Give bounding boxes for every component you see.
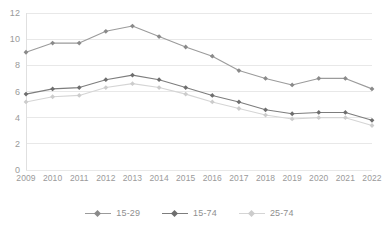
data-point [237,100,242,105]
data-point [24,92,29,97]
data-point [103,85,108,90]
legend-item-15-29[interactable]: 15-29 [85,208,140,218]
legend-marker-icon [248,209,255,216]
data-point [263,113,268,118]
data-point [130,24,135,29]
y-tick-label: 4 [15,113,20,123]
x-tick-label: 2009 [16,173,35,183]
data-point [103,77,108,82]
data-point [370,118,375,123]
data-point [157,34,162,39]
data-point [77,93,82,98]
x-tick-label: 2016 [203,173,222,183]
y-tick-label: 8 [15,60,20,70]
legend-label: 15-74 [193,208,217,218]
x-tick-label: 2018 [256,173,275,183]
data-point [316,115,321,120]
legend-swatch-icon [85,209,111,218]
x-tick-label: 2015 [176,173,195,183]
data-point [77,85,82,90]
data-point [183,45,188,50]
x-tick-label: 2011 [70,173,89,183]
x-tick-label: 2019 [282,173,301,183]
data-point [50,94,55,99]
data-point [343,76,348,81]
legend-label: 15-29 [116,208,140,218]
legend-marker-icon [94,209,101,216]
x-tick-label: 2012 [96,173,115,183]
data-point [237,106,242,111]
x-tick-label: 2013 [123,173,142,183]
legend-item-15-74[interactable]: 15-74 [162,208,217,218]
plot-area [26,13,372,170]
data-point [263,107,268,112]
legend-marker-icon [171,209,178,216]
data-point [316,76,321,81]
data-point [343,110,348,115]
data-point [290,117,295,122]
series-15-29 [24,24,375,92]
y-tick-label: 10 [10,34,20,44]
legend-item-25-74[interactable]: 25-74 [239,208,294,218]
data-point [183,92,188,97]
x-axis: 2009201020112012201320142015201620172018… [26,173,372,189]
data-point [210,54,215,59]
legend-label: 25-74 [270,208,294,218]
data-point [370,86,375,91]
data-point [24,100,29,105]
y-axis: 024681012 [0,0,24,183]
data-point [263,76,268,81]
series-line [26,84,372,126]
data-point [316,110,321,115]
data-point [210,100,215,105]
legend-swatch-icon [239,209,265,218]
data-point [370,123,375,128]
data-point [103,29,108,34]
data-point [50,41,55,46]
data-point [183,85,188,90]
data-point [157,77,162,82]
data-point [157,85,162,90]
x-tick-label: 2021 [336,173,355,183]
legend-swatch-icon [162,209,188,218]
y-tick-label: 6 [15,87,20,97]
x-tick-label: 2014 [149,173,168,183]
data-point [290,83,295,88]
data-point [237,68,242,73]
data-point [50,86,55,91]
data-point [24,50,29,55]
data-point [77,41,82,46]
y-tick-label: 2 [15,139,20,149]
data-point [343,115,348,120]
x-tick-label: 2022 [362,173,381,183]
x-tick-label: 2020 [309,173,328,183]
data-point [130,81,135,86]
y-tick-label: 12 [10,8,20,18]
data-point [210,93,215,98]
series-layer [26,13,372,170]
x-tick-label: 2010 [43,173,62,183]
data-point [130,73,135,78]
chart-legend: 15-2915-7425-74 [0,203,379,223]
data-point [290,111,295,116]
x-tick-label: 2017 [229,173,248,183]
